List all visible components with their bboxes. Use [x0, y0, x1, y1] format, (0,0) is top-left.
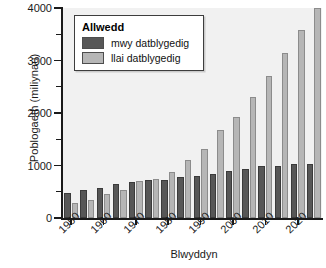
- population-bar-chart: Poblogaeth (miliynau) 01000200030004000 …: [0, 0, 326, 268]
- y-tick-minor-1500: [56, 139, 62, 140]
- bar-more-2005: [242, 169, 248, 218]
- bar-less-1955: [88, 200, 94, 218]
- legend-swatch-less-developed: [82, 52, 104, 64]
- bar-more-2020: [291, 164, 297, 218]
- legend-label-more-developed: mwy datblygedig: [111, 37, 189, 49]
- bar-less-1990: [201, 149, 207, 218]
- y-tick-label-3000: 3000: [0, 55, 52, 67]
- bar-more-1965: [113, 184, 119, 218]
- legend-title: Allwedd: [82, 21, 196, 33]
- bar-more-1975: [145, 180, 151, 218]
- y-tick-1000: [54, 165, 62, 167]
- bar-less-1985: [185, 160, 191, 218]
- bar-more-1955: [80, 190, 86, 218]
- bar-less-2025: [314, 8, 320, 218]
- y-tick-0: [54, 217, 62, 219]
- y-tick-minor-2500: [56, 86, 62, 87]
- bar-less-1975: [153, 179, 159, 218]
- bar-more-1990: [194, 176, 200, 218]
- bar-less-2010: [266, 76, 272, 218]
- legend-item-less-developed: llai datblygedig: [82, 52, 196, 64]
- y-tick-label-0: 0: [0, 212, 52, 224]
- bar-more-2010: [258, 166, 264, 218]
- bar-more-2000: [226, 171, 232, 218]
- y-tick-3000: [54, 60, 62, 62]
- y-tick-4000: [54, 7, 62, 9]
- bar-more-1995: [210, 174, 216, 218]
- bar-less-1965: [120, 190, 126, 218]
- bar-less-2015: [282, 53, 288, 218]
- y-tick-minor-500: [56, 191, 62, 192]
- bar-less-2005: [250, 97, 256, 218]
- bar-more-2025: [307, 164, 313, 218]
- legend-swatch-more-developed: [82, 37, 104, 49]
- legend-item-more-developed: mwy datblygedig: [82, 37, 196, 49]
- bar-less-2020: [298, 30, 304, 218]
- y-tick-minor-3500: [56, 34, 62, 35]
- y-tick-label-2000: 2000: [0, 107, 52, 119]
- legend: Allwedd mwy datblygedig llai datblygedig: [74, 15, 204, 71]
- y-tick-label-1000: 1000: [0, 160, 52, 172]
- bar-more-2015: [275, 166, 281, 219]
- legend-label-less-developed: llai datblygedig: [111, 52, 180, 64]
- bar-less-1995: [217, 130, 223, 218]
- y-tick-label-4000: 4000: [0, 2, 52, 14]
- y-tick-2000: [54, 112, 62, 114]
- bar-less-2000: [233, 117, 239, 218]
- x-axis-title: Blwyddyn: [63, 248, 325, 260]
- x-tick-label-1950: 1950: [56, 210, 82, 236]
- bar-more-1985: [177, 177, 183, 218]
